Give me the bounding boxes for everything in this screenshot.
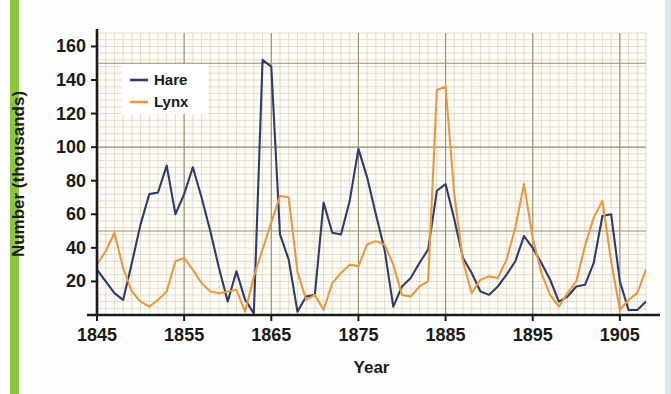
legend-label-lynx: Lynx bbox=[154, 93, 189, 110]
y-axis-title: Number (thousands) bbox=[9, 91, 28, 257]
y-tick-label: 80 bbox=[66, 171, 86, 191]
chart-svg: 1845185518651875188518951905 20406080100… bbox=[0, 0, 671, 394]
y-tick-label: 20 bbox=[66, 271, 86, 291]
hare-lynx-population-chart: 1845185518651875188518951905 20406080100… bbox=[0, 0, 671, 394]
y-tick-label: 140 bbox=[56, 70, 86, 90]
legend-label-hare: Hare bbox=[154, 71, 187, 88]
x-tick-label: 1875 bbox=[338, 325, 378, 345]
y-tick-label: 160 bbox=[56, 36, 86, 56]
x-axis-tick-labels: 1845185518651875188518951905 bbox=[77, 325, 640, 345]
x-tick-label: 1855 bbox=[164, 325, 204, 345]
chart-legend: HareLynx bbox=[122, 64, 208, 114]
x-axis-title: Year bbox=[354, 358, 390, 377]
y-axis-tick-labels: 20406080100120140160 bbox=[56, 36, 86, 291]
x-tick-label: 1865 bbox=[251, 325, 291, 345]
x-tick-label: 1895 bbox=[513, 325, 553, 345]
x-tick-label: 1905 bbox=[600, 325, 640, 345]
y-tick-label: 60 bbox=[66, 204, 86, 224]
x-tick-label: 1845 bbox=[77, 325, 117, 345]
y-tick-label: 120 bbox=[56, 104, 86, 124]
figure-root: 1845185518651875188518951905 20406080100… bbox=[0, 0, 671, 394]
x-tick-label: 1885 bbox=[426, 325, 466, 345]
y-tick-label: 40 bbox=[66, 238, 86, 258]
y-tick-label: 100 bbox=[56, 137, 86, 157]
